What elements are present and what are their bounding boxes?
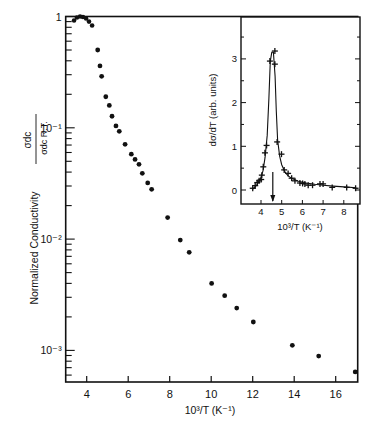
inset-y-tick-label: 0	[232, 185, 237, 196]
data-point	[90, 23, 95, 28]
data-point	[149, 187, 154, 192]
data-point	[353, 370, 358, 375]
data-point	[165, 215, 170, 220]
main-y-axis-label: Normalized Conductivity σdc σdc R.T.	[22, 114, 49, 305]
data-point	[110, 114, 115, 119]
y-tick-label: 10⁻²	[41, 233, 63, 245]
main-y-axis: 110⁻¹10⁻²10⁻³	[41, 11, 75, 376]
main-y-axis-fraction-denominator: σdc R.T.	[39, 121, 49, 155]
data-point	[290, 343, 295, 348]
data-point	[137, 162, 142, 167]
inset-x-tick-label: 5	[279, 206, 284, 217]
inset-y-axis-label: dσ/dT (arb. units)	[207, 74, 218, 147]
data-point	[145, 180, 150, 185]
conductivity-chart: 46810121416 110⁻¹10⁻²10⁻³ 10³/T (K⁻¹) No…	[0, 0, 376, 432]
inset-x-axis-label: 10³/T (K⁻¹)	[277, 221, 322, 232]
x-tick-label: 6	[125, 388, 131, 400]
x-tick-label: 10	[205, 388, 217, 400]
x-tick-label: 12	[247, 388, 259, 400]
data-point	[129, 152, 134, 157]
inset-x-tick-label: 6	[300, 206, 305, 217]
data-point	[222, 293, 227, 298]
data-point	[107, 103, 112, 108]
x-tick-label: 8	[167, 388, 173, 400]
data-point	[187, 250, 192, 255]
data-point	[99, 74, 104, 79]
data-point	[114, 124, 119, 129]
data-point	[98, 63, 103, 68]
main-y-axis-label-text: Normalized Conductivity	[28, 191, 40, 305]
inset-x-tick-label: 7	[320, 206, 325, 217]
data-point	[103, 94, 108, 99]
inset-y-tick-label: 3	[232, 53, 237, 64]
data-point	[251, 320, 256, 325]
data-point	[117, 129, 122, 134]
main-y-axis-fraction-numerator: σdc	[22, 132, 33, 149]
data-point	[178, 238, 183, 243]
data-point	[209, 281, 214, 286]
x-tick-label: 16	[330, 388, 342, 400]
data-point	[234, 306, 239, 311]
data-point	[316, 354, 321, 359]
data-point	[140, 171, 145, 176]
y-tick-label: 10⁻³	[41, 344, 63, 356]
main-x-axis: 46810121416	[84, 376, 342, 400]
data-point	[95, 48, 100, 53]
data-point	[133, 157, 138, 162]
data-point	[87, 19, 92, 24]
inset-y-tick-label: 1	[232, 141, 237, 152]
inset-plot-frame	[241, 17, 360, 204]
x-tick-label: 14	[288, 388, 300, 400]
data-point	[123, 142, 128, 147]
x-tick-label: 4	[84, 388, 90, 400]
inset-x-tick-label: 4	[258, 206, 263, 217]
inset-x-tick-label: 8	[341, 206, 346, 217]
main-x-axis-label: 10³/T (K⁻¹)	[185, 404, 236, 416]
inset-y-tick-label: 2	[232, 97, 237, 108]
y-tick-label: 1	[56, 11, 62, 23]
